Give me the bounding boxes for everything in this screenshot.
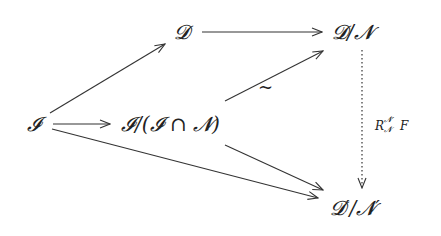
arrow-I-to-D — [50, 44, 165, 113]
arrow-I-to-DpNp — [52, 129, 318, 198]
arrow-Iquot-to-DN — [225, 51, 323, 101]
label-R-functor: R𝓝′𝓝 F — [375, 117, 408, 135]
node-Dprime-over-Nprime: 𝓓′/𝓝′ — [330, 198, 380, 218]
arrow-Iquot-to-DpNp — [225, 145, 323, 190]
node-I-quotient: 𝓘/(𝓘 ∩ 𝓝) — [121, 114, 220, 134]
commutative-diagram: 𝓘 𝓓 𝓓/𝓝 𝓘/(𝓘 ∩ 𝓝) 𝓓′/𝓝′ ~ R𝓝′𝓝 F — [0, 0, 441, 236]
label-R-sup: 𝓝′ — [384, 116, 394, 124]
label-R-sub: 𝓝 — [384, 126, 392, 134]
node-I: 𝓘 — [27, 114, 41, 134]
label-tilde: ~ — [258, 78, 273, 96]
label-R: R — [375, 119, 384, 133]
node-D: 𝓓 — [174, 22, 189, 42]
label-F: F — [400, 119, 408, 133]
node-D-over-N: 𝓓/𝓝 — [332, 22, 373, 42]
label-R-indices: 𝓝′𝓝 — [384, 117, 396, 135]
